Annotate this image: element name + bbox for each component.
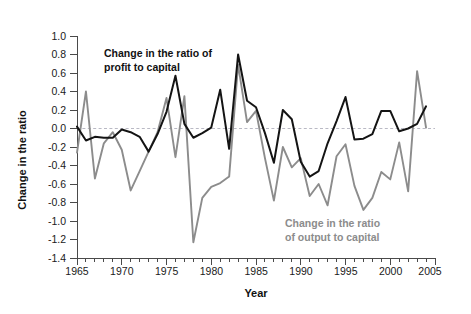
y-tick-label: 0.2: [51, 104, 66, 116]
profit-annotation: Change in the ratio of profit to capital: [104, 47, 212, 73]
x-tick-label: 1970: [110, 265, 134, 277]
y-tick-label: -1.2: [48, 233, 66, 245]
x-tick-label: 1985: [245, 265, 269, 277]
series-line-output-to-capital: [77, 65, 426, 243]
x-axis-title: Year: [244, 287, 268, 299]
x-tick-label: 1980: [200, 265, 224, 277]
x-tick-label: 1995: [334, 265, 358, 277]
y-tick-label: -1.0: [48, 215, 66, 227]
y-axis-ticks: [70, 36, 77, 258]
y-axis-title: Change in the ratio: [16, 110, 28, 210]
y-tick-label: 1.0: [51, 30, 66, 42]
y-tick-label: 0.6: [51, 67, 66, 79]
profit-annotation-line-2: profit to capital: [104, 61, 180, 73]
y-tick-label: -0.4: [48, 159, 66, 171]
x-tick-label: 1990: [289, 265, 313, 277]
output-annotation: Change in the ratio of output to capital: [285, 217, 380, 243]
y-tick-label: -0.8: [48, 196, 66, 208]
y-tick-label: -0.6: [48, 178, 66, 190]
x-axis-tick-labels: 1965 1970 1975 1980 1985 1990 1995 2000 …: [65, 265, 442, 277]
x-tick-label: 2005: [418, 265, 442, 277]
y-tick-label: -0.2: [48, 141, 66, 153]
x-tick-label: 1975: [155, 265, 179, 277]
y-tick-label: 0.0: [51, 122, 66, 134]
y-tick-label: 0.8: [51, 48, 66, 60]
x-tick-label: 1965: [65, 265, 89, 277]
line-chart-canvas: 1.0 0.8 0.6 0.4 0.2 0.0 -0.2 -0.4 -0.6 -…: [0, 0, 471, 314]
y-tick-label: 0.4: [51, 85, 66, 97]
output-annotation-line-1: Change in the ratio: [285, 217, 380, 229]
x-tick-label: 2000: [379, 265, 403, 277]
x-axis-ticks: [77, 258, 435, 265]
y-tick-label: -1.4: [48, 252, 66, 264]
chart-figure: 1.0 0.8 0.6 0.4 0.2 0.0 -0.2 -0.4 -0.6 -…: [0, 0, 471, 314]
output-annotation-line-2: of output to capital: [285, 231, 380, 243]
profit-annotation-line-1: Change in the ratio of: [104, 47, 212, 59]
y-axis-tick-labels: 1.0 0.8 0.6 0.4 0.2 0.0 -0.2 -0.4 -0.6 -…: [48, 30, 66, 264]
